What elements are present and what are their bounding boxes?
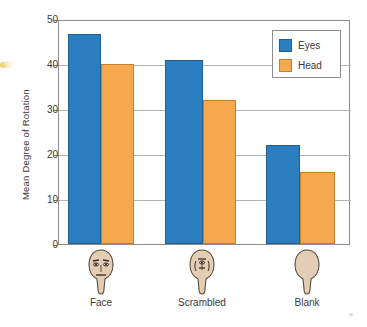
- scan-artifact-dot: [349, 313, 353, 316]
- legend-label-eyes: Eyes: [298, 40, 320, 51]
- category-scrambled: Scrambled: [157, 248, 247, 308]
- bar-chart-figure: Mean Degree of Rotation 50 40 30 20 10 0: [0, 0, 367, 327]
- legend-item-eyes[interactable]: Eyes: [279, 36, 340, 54]
- legend-item-head[interactable]: Head: [279, 56, 340, 74]
- bar-scrambled-eyes[interactable]: [165, 60, 203, 244]
- legend: Eyes Head: [272, 30, 341, 78]
- bar-face-eyes[interactable]: [68, 34, 101, 244]
- y-axis-ticks: 50 40 30 20 10 0: [28, 20, 58, 246]
- face-head-icon: [84, 248, 118, 296]
- y-tick-mark-0: [53, 245, 58, 246]
- scrambled-head-icon: [185, 248, 219, 296]
- bar-scrambled-head[interactable]: [203, 100, 236, 244]
- category-label-scrambled: Scrambled: [157, 297, 247, 308]
- legend-swatch-eyes-icon: [279, 39, 292, 52]
- category-label-blank: Blank: [262, 297, 352, 308]
- bar-blank-eyes[interactable]: [266, 145, 300, 244]
- bar-blank-head[interactable]: [300, 172, 335, 244]
- legend-swatch-head-icon: [279, 59, 292, 72]
- legend-label-head: Head: [298, 60, 322, 71]
- category-blank: Blank: [262, 248, 352, 308]
- category-face: Face: [56, 248, 146, 308]
- category-label-face: Face: [56, 297, 146, 308]
- blank-head-icon: [290, 248, 324, 296]
- bar-face-head[interactable]: [101, 64, 134, 244]
